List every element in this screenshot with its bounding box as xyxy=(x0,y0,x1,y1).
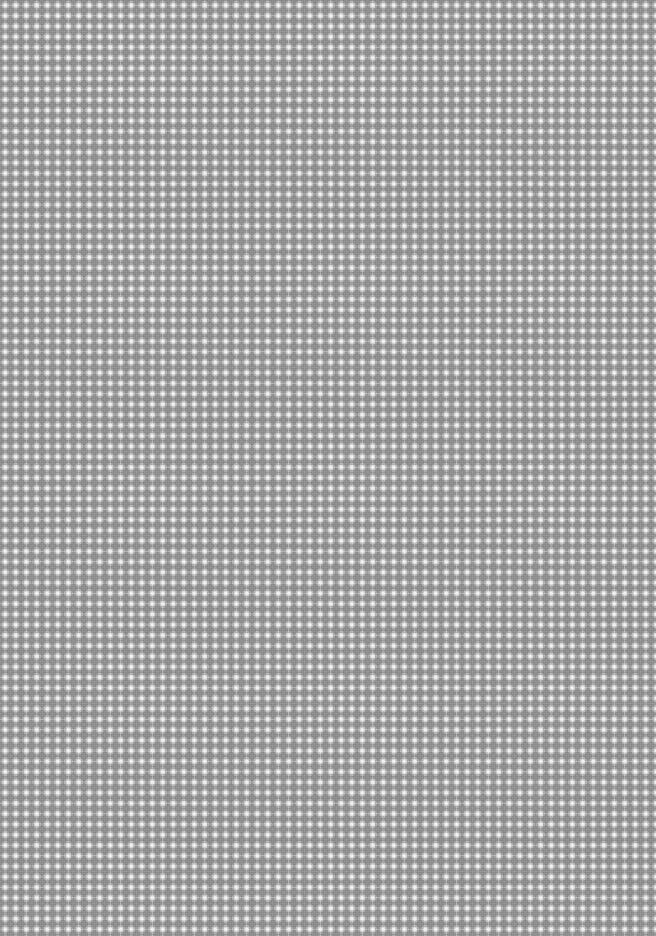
diamond-texture-background xyxy=(0,0,656,936)
